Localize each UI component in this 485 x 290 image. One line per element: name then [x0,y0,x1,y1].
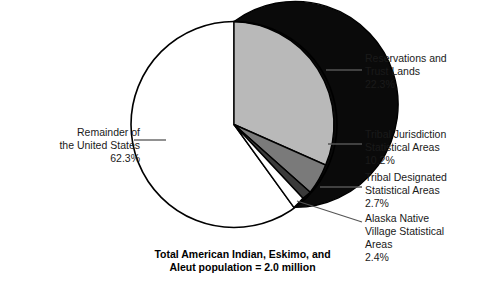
label-tribal-designated-statistical-areas: Tribal Designated Statistical Areas 2.7% [365,171,447,210]
label-reservations-and-trust-lands: Reservations and Trust Lands 22.3% [365,52,447,91]
label-tribal-jurisdiction-statistical-areas: Tribal Jurisdiction Statistical Areas 10… [365,128,446,167]
label-line-1: Reservations and [365,52,447,65]
caption-line-2: Aleut population = 2.0 million [0,261,485,274]
label-value: 10.2% [365,154,446,167]
label-line-1: Alaska Native [365,212,444,225]
label-line-1: Remainder of [59,126,140,139]
caption-line-1: Total American Indian, Eskimo, and [0,248,485,261]
label-line-2: Statistical Areas [365,184,447,197]
pie-chart-figure: Reservations and Trust Lands 22.3% Triba… [0,0,485,290]
leader-line-alaska-native [297,201,362,222]
label-value: 22.3% [365,78,447,91]
label-line-1: Tribal Designated [365,171,447,184]
label-line-2: the United States [59,139,140,152]
label-line-2: Trust Lands [365,65,447,78]
label-line-2: Statistical Areas [365,141,446,154]
label-value: 62.3% [59,152,140,165]
label-line-1: Tribal Jurisdiction [365,128,446,141]
label-value: 2.7% [365,197,447,210]
label-line-2: Village Statistical [365,225,444,238]
chart-caption: Total American Indian, Eskimo, and Aleut… [0,248,485,274]
label-remainder-of-the-united-states: Remainder of the United States 62.3% [59,126,140,165]
